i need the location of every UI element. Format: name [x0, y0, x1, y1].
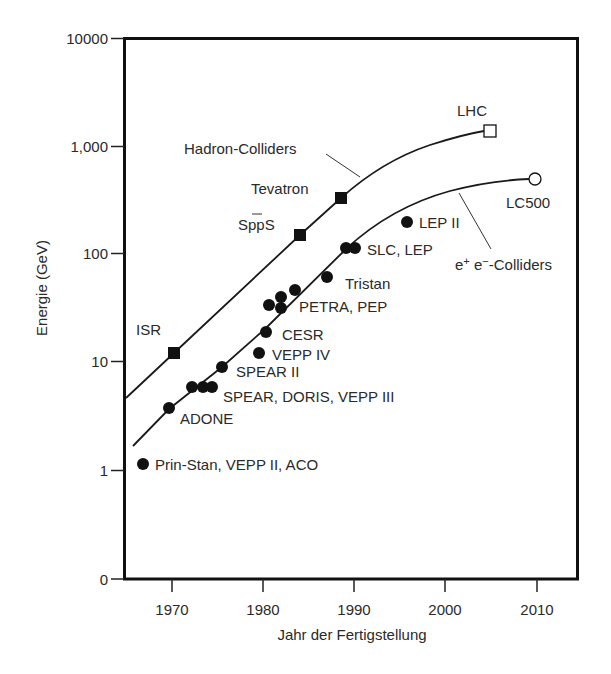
y-tick-label: 10000 [66, 30, 108, 47]
label-isr: ISR [136, 321, 161, 338]
label-spear2: SPEAR II [236, 363, 299, 380]
marker-prin-stan [137, 458, 149, 470]
marker-lhc [484, 125, 496, 137]
marker-tevatron [335, 192, 347, 204]
label-hadron-colliders: Hadron-Colliders [184, 140, 297, 157]
marker-cesr [260, 326, 272, 338]
x-tick-label: 1970 [155, 601, 188, 618]
marker-petra [289, 284, 301, 296]
marker-tristan [321, 271, 333, 283]
label-vepp4: VEPP IV [272, 346, 330, 363]
label-cesr: CESR [282, 326, 324, 343]
ee-leader-line [459, 193, 491, 249]
marker-vepp4 [253, 347, 265, 359]
label-spps: SppS [238, 216, 275, 233]
x-tick-label: 1990 [337, 601, 370, 618]
marker-lep2 [401, 216, 413, 228]
label-ee-colliders: e+ e−-Colliders [455, 255, 552, 273]
y-axis: 10000 1,000 100 10 1 0 Energie (GeV) [33, 30, 124, 588]
marker-petra [263, 299, 275, 311]
hadron-markers [168, 125, 496, 359]
x-axis: 1970 1980 1990 2000 2010 Jahr der Fertig… [155, 579, 553, 643]
x-axis-title: Jahr der Fertigstellung [277, 626, 426, 643]
y-axis-title: Energie (GeV) [33, 240, 50, 336]
y-tick-label: 10 [91, 353, 108, 370]
y-tick-label: 1,000 [70, 138, 108, 155]
y-tick-label: 0 [100, 571, 108, 588]
label-adone: ADONE [180, 410, 233, 427]
marker-vepp3 [206, 381, 218, 393]
marker-adone [163, 402, 175, 414]
x-tick-label: 2010 [520, 601, 553, 618]
marker-lc500 [529, 173, 541, 185]
marker-spear [186, 381, 198, 393]
x-tick-label: 1980 [246, 601, 279, 618]
marker-spps [294, 229, 306, 241]
x-tick-label: 2000 [428, 601, 461, 618]
label-petra-pep: PETRA, PEP [299, 298, 387, 315]
label-tristan: Tristan [345, 275, 390, 292]
y-tick-label: 100 [83, 245, 108, 262]
marker-spear2 [216, 361, 228, 373]
marker-lep [349, 242, 361, 254]
label-lep2: LEP II [419, 214, 460, 231]
label-lc500: LC500 [506, 194, 550, 211]
hadron-leader-line [326, 154, 360, 177]
marker-pep [275, 291, 287, 303]
label-tevatron: Tevatron [251, 180, 309, 197]
chart: 10000 1,000 100 10 1 0 Energie (GeV) 197… [0, 0, 611, 674]
marker-isr [168, 347, 180, 359]
annotations: ISR SppS Tevatron LHC Hadron-Colliders P… [136, 102, 552, 473]
label-slc-lep: SLC, LEP [367, 241, 433, 258]
label-lhc: LHC [457, 102, 487, 119]
marker-petra [275, 302, 287, 314]
label-prin-stan: Prin-Stan, VEPP II, ACO [155, 456, 318, 473]
label-spear-doris: SPEAR, DORIS, VEPP III [223, 388, 394, 405]
y-tick-label: 1 [100, 462, 108, 479]
